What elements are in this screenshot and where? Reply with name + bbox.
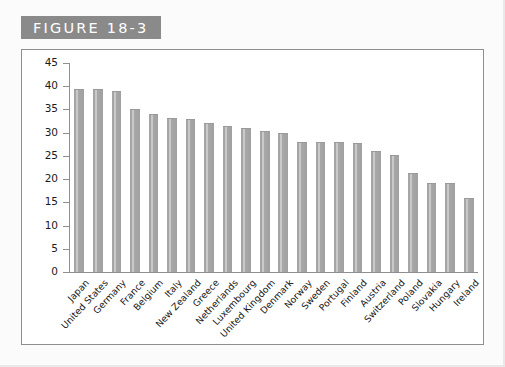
bar	[316, 142, 326, 272]
bar-slot	[126, 63, 145, 272]
y-axis-tick: 5	[63, 249, 70, 250]
y-axis-tick-label: 0	[51, 265, 58, 277]
bar	[334, 142, 344, 272]
bar	[260, 131, 270, 272]
y-axis-tick: 25	[63, 156, 70, 157]
bar-slot	[367, 63, 386, 272]
x-axis-line	[69, 272, 478, 273]
y-axis-tick-label: 10	[45, 219, 58, 231]
y-axis-tick-label: 15	[45, 195, 58, 207]
figure-page: FIGURE 18-3 454035302520151050 JapanUnit…	[0, 0, 505, 367]
bar-slot	[255, 63, 274, 272]
bar	[223, 126, 233, 272]
bar	[149, 114, 159, 272]
bar-slot	[330, 63, 349, 272]
bar-slot	[385, 63, 404, 272]
y-axis-tick: 10	[63, 226, 70, 227]
y-axis-tick: 30	[63, 133, 70, 134]
bar-slot	[274, 63, 293, 272]
bar-slot	[422, 63, 441, 272]
y-axis-tick-label: 5	[51, 242, 58, 254]
y-axis-tick: 0	[63, 272, 70, 273]
bar	[241, 128, 251, 272]
plot-area	[70, 63, 478, 272]
y-axis-tick-label: 20	[45, 172, 58, 184]
bar	[390, 155, 400, 272]
y-axis-tick: 20	[63, 179, 70, 180]
bar-chart: 454035302520151050 JapanUnited StatesGer…	[21, 49, 484, 345]
bar-slot	[181, 63, 200, 272]
y-axis-tick-label: 35	[45, 102, 58, 114]
bar-slot	[70, 63, 89, 272]
y-axis-tick: 45	[63, 63, 70, 64]
bar-slot	[293, 63, 312, 272]
bar	[353, 143, 363, 272]
bar	[297, 142, 307, 272]
bar	[464, 198, 474, 272]
bar-slot	[89, 63, 108, 272]
y-axis-tick-label: 30	[45, 126, 58, 138]
bar-slot	[311, 63, 330, 272]
bar	[167, 118, 177, 272]
bar	[371, 151, 381, 272]
bar-slot	[441, 63, 460, 272]
bar	[408, 173, 418, 272]
y-axis-tick: 40	[63, 86, 70, 87]
bar	[186, 119, 196, 272]
bar-slot	[404, 63, 423, 272]
bar-slot	[348, 63, 367, 272]
bar	[74, 89, 84, 272]
bar-slot	[459, 63, 478, 272]
bar	[93, 89, 103, 272]
y-axis-tick: 15	[63, 202, 70, 203]
y-axis-tick-label: 40	[45, 79, 58, 91]
bar	[278, 133, 288, 272]
bar-slot	[237, 63, 256, 272]
bar	[427, 183, 437, 272]
y-axis-tick-label: 25	[45, 149, 58, 161]
bar	[112, 91, 122, 272]
figure-number-badge: FIGURE 18-3	[21, 16, 161, 39]
bar-slot	[200, 63, 219, 272]
bar-slot	[144, 63, 163, 272]
bar-slot	[218, 63, 237, 272]
y-axis-tick: 35	[63, 109, 70, 110]
bar-slot	[107, 63, 126, 272]
bar	[445, 183, 455, 272]
bar	[204, 123, 214, 272]
y-axis-tick-label: 45	[45, 56, 58, 68]
bar-slot	[163, 63, 182, 272]
bar	[130, 109, 140, 272]
